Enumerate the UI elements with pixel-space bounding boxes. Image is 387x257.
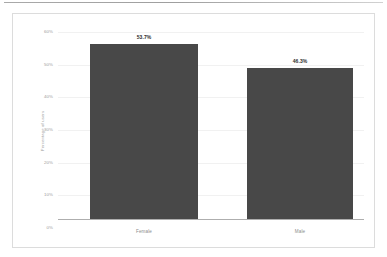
y-tick-label: 0%: [27, 226, 53, 230]
bar-male[interactable]: 46.3%: [247, 68, 353, 219]
bar-female[interactable]: 53.7%: [90, 44, 198, 219]
y-tick-label: 50%: [27, 62, 53, 66]
y-tick-label: 30%: [27, 128, 53, 132]
bar-chart-panel: Percentage of users 60% 50% 40% 30% 20% …: [12, 13, 375, 248]
bar-value-label: 46.3%: [247, 58, 353, 64]
y-axis-tick-labels: 60% 50% 40% 30% 20% 10% 0%: [27, 14, 53, 247]
plot-area: 53.7% 46.3%: [58, 32, 364, 220]
x-tick-label-female: Female: [90, 229, 198, 234]
y-tick-label: 10%: [27, 193, 53, 197]
y-tick-label: 60%: [27, 30, 53, 34]
bar-rect: [247, 68, 353, 219]
page-separator-rule: [4, 2, 383, 3]
x-axis-line: [58, 219, 364, 220]
y-tick-label: 20%: [27, 160, 53, 164]
bar-rect: [90, 44, 198, 219]
y-tick-label: 40%: [27, 95, 53, 99]
bar-value-label: 53.7%: [90, 34, 198, 40]
bar-series: 53.7% 46.3%: [58, 32, 364, 220]
x-tick-label-male: Male: [247, 229, 353, 234]
x-axis-tick-labels: Female Male: [58, 229, 364, 239]
chart-plot-wrapper: Percentage of users 60% 50% 40% 30% 20% …: [13, 14, 374, 247]
